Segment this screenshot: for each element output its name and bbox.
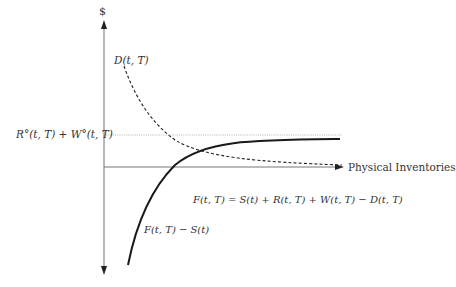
dashed-curve-d	[124, 66, 342, 165]
solid-curve-label: F(t, T) − S(t)	[144, 225, 209, 235]
y-axis-label: $	[99, 6, 106, 17]
y-axis-arrow-down-icon	[101, 266, 107, 275]
equation-label: F(t, T) = S(t) + R(t, T) + W(t, T) − D(t…	[193, 195, 403, 205]
y-axis-arrow-up-icon	[101, 20, 107, 29]
dashed-curve-label: D(t, T)	[114, 55, 149, 66]
x-axis-label: Physical Inventories	[348, 162, 456, 173]
reference-level-label: R°(t, T) + W°(t, T)	[16, 129, 113, 140]
